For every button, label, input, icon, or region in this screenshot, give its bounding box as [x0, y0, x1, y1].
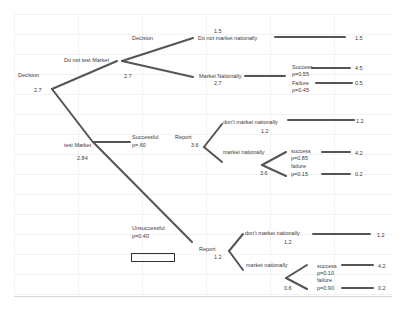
failure-label: failure	[317, 277, 332, 284]
market-nationally-value: 0.6	[284, 285, 292, 292]
decision-tree-canvas: Decision 2.7 Do not test Market Decision…	[0, 0, 405, 312]
dont-market-value: 1.2	[284, 239, 292, 246]
failure-payoff: 0.5	[355, 80, 363, 87]
market-nationally-value: 3.6	[260, 170, 268, 177]
success-payoff: 4.2	[355, 150, 363, 157]
root-decision-value: 2.7	[34, 87, 42, 94]
report-label: Report	[199, 246, 216, 253]
do-not-test-market-label: Do not test Market	[64, 57, 109, 64]
failure-payoff: 0.2	[378, 285, 386, 292]
decision-node-label: Decision	[132, 35, 153, 42]
successful-prob: p=.60	[132, 142, 146, 149]
dont-market-label: don't market nationally	[223, 119, 278, 126]
success-label: Success	[292, 64, 313, 71]
success-label: success	[291, 148, 311, 155]
dont-market-value: 1.2	[261, 128, 269, 135]
failure-payoff: 0.2	[355, 171, 363, 178]
success-prob: p=0.55	[292, 71, 309, 78]
report-value: 1.2	[214, 254, 222, 261]
market-nationally-label: market nationally	[246, 262, 288, 269]
success-payoff: 4.5	[355, 65, 363, 72]
dont-market-payoff: 1.2	[377, 232, 385, 239]
market-nationally-label: market nationally	[223, 149, 265, 156]
failure-prob: p=0.45	[292, 87, 309, 94]
test-market-label: test Market	[64, 142, 91, 149]
market-nationally-label: Market Nationally	[199, 73, 242, 80]
report-value: 3.6	[191, 142, 199, 149]
failure-prob: p=0.15	[291, 171, 308, 178]
successful-label: Successful	[132, 134, 159, 141]
success-prob: p=0.85	[291, 155, 308, 162]
root-decision-label: Decision	[18, 72, 39, 79]
do-not-market-value: 1.5	[214, 28, 222, 35]
tree-branches	[0, 0, 405, 312]
dont-market-payoff: 1.2	[356, 118, 364, 125]
failure-prob: p=0.90	[317, 285, 334, 292]
test-market-value: 2.84	[77, 155, 88, 162]
do-not-market-label: Do not market nationally	[198, 35, 257, 42]
market-nationally-value: 2.7	[214, 80, 222, 87]
success-label: success	[317, 263, 337, 270]
decision-node-value: 2.7	[124, 73, 132, 80]
failure-label: Failure	[292, 80, 309, 87]
success-payoff: 4.2	[378, 263, 386, 270]
empty-rectangle	[131, 253, 175, 262]
report-label: Report	[175, 134, 192, 141]
do-not-market-payoff: 1.5	[355, 35, 363, 42]
dont-market-label: don't market nationally	[245, 230, 300, 237]
unsuccessful-prob: p=0.40	[132, 233, 149, 240]
failure-label: failure	[291, 163, 306, 170]
success-prob: p=0.10	[317, 270, 334, 277]
unsuccessful-label: Unsuccessful	[132, 225, 165, 232]
